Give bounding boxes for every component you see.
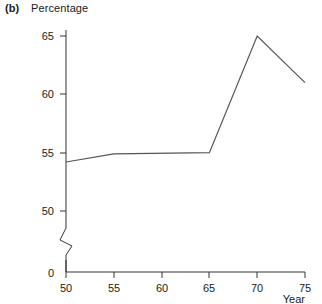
- x-tick-label-55: 55: [108, 282, 120, 294]
- x-axis-title: Year: [283, 293, 306, 304]
- y-tick-label-60: 60: [42, 88, 54, 100]
- y-tick-marks: [60, 36, 66, 211]
- line-chart: 65 60 55 50 0 50 55 60 65 70 75 Year: [0, 0, 322, 304]
- x-tick-marks: [66, 272, 305, 278]
- y-tick-label-65: 65: [42, 30, 54, 42]
- figure-panel-b: (b) Percentage 65 60 55 50 0: [0, 0, 322, 304]
- y-tick-label-55: 55: [42, 147, 54, 159]
- y-tick-label-50: 50: [42, 205, 54, 217]
- y-tick-label-0: 0: [48, 267, 54, 279]
- data-series-line: [66, 36, 305, 162]
- x-tick-label-60: 60: [156, 282, 168, 294]
- x-tick-label-50: 50: [60, 282, 72, 294]
- x-tick-label-70: 70: [251, 282, 263, 294]
- x-tick-label-65: 65: [203, 282, 215, 294]
